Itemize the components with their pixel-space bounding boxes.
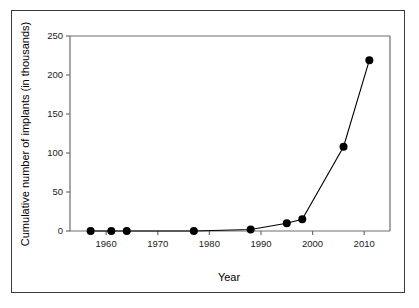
data-point-marker bbox=[87, 227, 95, 235]
series-cumulative-implants bbox=[87, 56, 374, 235]
y-axis-tick-label: 250 bbox=[47, 30, 63, 41]
y-axis-title: Cumulative number of implants (in thousa… bbox=[19, 22, 31, 246]
x-axis-tick-label: 1970 bbox=[147, 238, 168, 249]
x-axis: 196019701980199020002010 bbox=[70, 36, 390, 249]
y-axis-tick-label: 0 bbox=[58, 225, 63, 236]
data-point-marker bbox=[190, 227, 198, 235]
x-axis-tick-label: 1990 bbox=[250, 238, 271, 249]
y-axis: 050100150200250 bbox=[47, 30, 70, 236]
data-point-marker bbox=[247, 225, 255, 233]
data-point-marker bbox=[340, 143, 348, 151]
y-axis-tick-label: 150 bbox=[47, 108, 63, 119]
line-chart: 050100150200250 196019701980199020002010… bbox=[0, 0, 419, 308]
x-axis-tick-label: 1980 bbox=[199, 238, 220, 249]
x-axis-title: Year bbox=[218, 271, 241, 283]
y-axis-tick-label: 100 bbox=[47, 147, 63, 158]
y-axis-tick-label: 200 bbox=[47, 69, 63, 80]
data-point-marker bbox=[365, 56, 373, 64]
series-line bbox=[91, 60, 370, 231]
data-point-marker bbox=[107, 227, 115, 235]
data-point-marker bbox=[123, 227, 131, 235]
data-point-marker bbox=[283, 219, 291, 227]
figure-root: 050100150200250 196019701980199020002010… bbox=[0, 0, 419, 308]
x-axis-tick-label: 2000 bbox=[302, 238, 323, 249]
y-axis-tick-label: 50 bbox=[52, 186, 63, 197]
x-axis-tick-label: 2010 bbox=[354, 238, 375, 249]
x-axis-tick-label: 1960 bbox=[96, 238, 117, 249]
data-point-marker bbox=[298, 215, 306, 223]
